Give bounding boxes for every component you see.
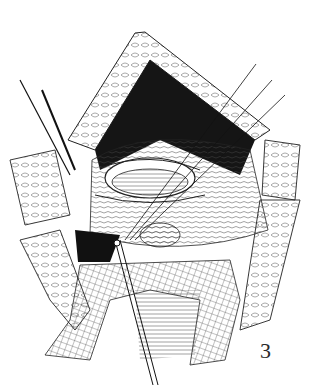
figure-number: 3: [260, 338, 271, 364]
surgical-illustration: [0, 0, 327, 391]
illustration-drawing: [0, 0, 327, 391]
